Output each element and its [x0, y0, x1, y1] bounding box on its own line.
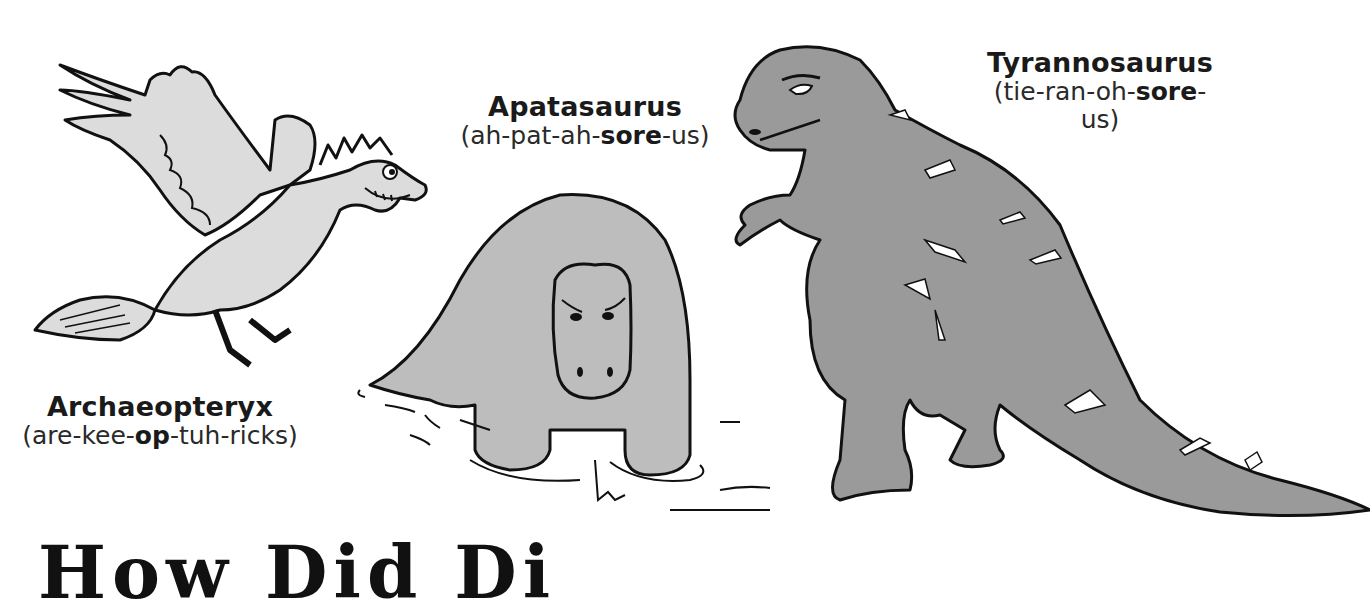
cropped-page-heading: How Did Di [38, 530, 556, 603]
tyrannosaurus-name: Tyrannosaurus [975, 48, 1225, 78]
tyrannosaurus-pronunciation: (tie-ran-oh-sore-us) [975, 78, 1225, 134]
archaeopteryx-name: Archaeopteryx [0, 392, 320, 422]
apatasaurus-pronunciation: (ah-pat-ah-sore-us) [440, 122, 730, 150]
archaeopteryx-pronunciation: (are-kee-op-tuh-ricks) [0, 422, 320, 450]
apatasaurus-name: Apatasaurus [440, 92, 730, 122]
tyrannosaurus-label: Tyrannosaurus (tie-ran-oh-sore-us) [975, 48, 1225, 134]
apatasaurus-label: Apatasaurus (ah-pat-ah-sore-us) [440, 92, 730, 150]
archaeopteryx-label: Archaeopteryx (are-kee-op-tuh-ricks) [0, 392, 320, 450]
